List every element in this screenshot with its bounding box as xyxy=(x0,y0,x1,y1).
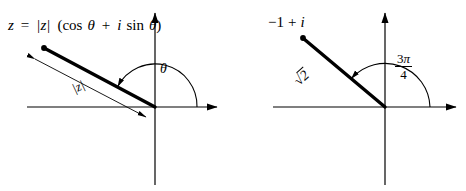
formula-i: i xyxy=(117,17,121,33)
fraction-denominator: 4 xyxy=(395,68,412,81)
formula-sin: sin xyxy=(126,17,144,33)
left-panel-graph xyxy=(27,13,217,185)
right-panel-graph xyxy=(273,13,456,185)
formula-equals: = xyxy=(21,17,29,33)
complex-number-polar-form-figure: z=|z|(cosθ+isinθ) θ |z| −1+i √2 3π 4 xyxy=(0,0,466,191)
right-angle-fraction-label: 3π 4 xyxy=(395,52,412,81)
formula-modulus: |z| xyxy=(36,17,50,33)
polar-form-formula: z=|z|(cosθ+isinθ) xyxy=(8,18,161,33)
formula-variable-z: z xyxy=(8,17,14,33)
formula-theta-cos: θ xyxy=(87,17,94,33)
right-angle-arc xyxy=(352,63,431,107)
fraction-numerator: 3π xyxy=(395,52,412,65)
point-real-part: −1 xyxy=(268,14,284,30)
left-vector-endpoint-dot xyxy=(41,45,47,51)
left-vector xyxy=(45,49,155,108)
formula-close-paren: ) xyxy=(156,17,161,33)
point-imaginary-part: i xyxy=(300,14,304,30)
left-magnitude-dimension-arrow xyxy=(35,59,146,117)
left-angle-arc xyxy=(118,64,197,107)
numerator-pi-symbol: π xyxy=(404,51,411,66)
left-angle-theta-label: θ xyxy=(160,62,167,76)
formula-cos: cos xyxy=(62,17,82,33)
formula-plus: + xyxy=(102,17,110,33)
point-plus-sign: + xyxy=(288,14,296,30)
right-vector xyxy=(304,39,385,107)
right-point-label: −1+i xyxy=(268,15,305,30)
right-vector-endpoint-dot xyxy=(300,35,306,41)
